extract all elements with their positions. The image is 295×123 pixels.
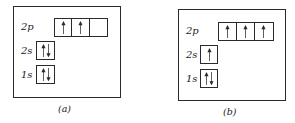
orbital-cell [237, 23, 255, 40]
caption-b: (b) [223, 106, 237, 117]
spin-down-arrow-icon [46, 44, 51, 57]
orbital-2s-a [36, 41, 55, 60]
orbital-2s-b [200, 45, 218, 64]
orbital-cell [55, 19, 72, 36]
orbital-cell [201, 70, 217, 87]
orbital-label-1s-a: 1s [21, 70, 33, 80]
spin-up-arrow-icon [207, 48, 212, 61]
orbital-cell [37, 42, 54, 59]
orbital-cell [219, 23, 237, 40]
spin-up-arrow-icon [261, 25, 266, 38]
orbital-cell [72, 19, 89, 36]
orbital-1s-a [36, 65, 55, 84]
orbital-label-2s-b: 2s [186, 50, 198, 60]
orbital-1s-b [200, 69, 218, 88]
spin-down-arrow-icon [209, 72, 214, 85]
caption-a: (a) [58, 103, 71, 114]
orbital-2p-b [218, 22, 274, 41]
spin-up-arrow-icon [61, 21, 66, 34]
orbital-2p-a [54, 18, 108, 37]
orbital-cell [201, 46, 217, 63]
spin-up-arrow-icon [243, 25, 248, 38]
orbital-cell [255, 23, 273, 40]
orbital-label-2s-a: 2s [21, 46, 33, 56]
spin-down-arrow-icon [46, 68, 51, 81]
orbital-cell [90, 19, 107, 36]
orbital-label-2p-a: 2p [21, 22, 34, 32]
orbital-cell [37, 66, 54, 83]
spin-up-arrow-icon [78, 21, 83, 34]
orbital-label-1s-b: 1s [186, 74, 198, 84]
spin-up-arrow-icon [225, 25, 230, 38]
orbital-label-2p-b: 2p [186, 26, 199, 36]
